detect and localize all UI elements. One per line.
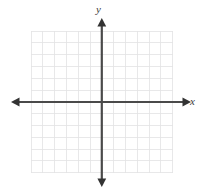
coordinate-grid-figure: y x: [0, 0, 205, 191]
y-axis-arrow-up: [97, 18, 106, 27]
y-axis-label: y: [96, 4, 101, 15]
coordinate-plane-svg: [0, 0, 205, 191]
x-axis-label: x: [190, 96, 195, 107]
x-axis-arrow-left: [11, 98, 20, 107]
y-axis-arrow-down: [97, 179, 106, 188]
